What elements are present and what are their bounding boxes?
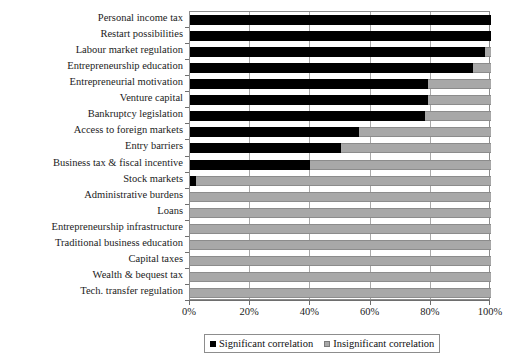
bar-row (190, 79, 489, 89)
bar-segment-insignificant (485, 47, 491, 57)
bar-segment-insignificant (190, 224, 491, 234)
bar-row (190, 95, 489, 105)
category-label: Stock markets (0, 174, 183, 184)
category-label: Administrative burdens (0, 190, 183, 200)
bar-segment-insignificant (428, 95, 491, 105)
category-label: Entrepreneurial motivation (0, 77, 183, 87)
bar-row (190, 31, 489, 41)
category-label: Entry barriers (0, 141, 183, 151)
bar-row (190, 272, 489, 282)
bar-segment-significant (190, 31, 491, 41)
category-label: Tech. transfer regulation (0, 286, 183, 296)
bar-row (190, 63, 489, 73)
y-axis-tick (185, 75, 189, 76)
bar-segment-significant (190, 63, 473, 73)
legend-swatch-gray (324, 341, 330, 347)
y-axis-tick (185, 156, 189, 157)
bar-segment-insignificant (190, 288, 491, 298)
bar-row (190, 256, 489, 266)
x-axis-tick (489, 300, 490, 305)
category-label: Bankruptcy legislation (0, 109, 183, 119)
x-axis-tick-label: 0% (182, 306, 196, 317)
category-label: Business tax & fiscal incentive (0, 158, 183, 168)
bar-segment-insignificant (190, 192, 491, 202)
category-label: Venture capital (0, 93, 183, 103)
x-axis-tick-label: 100% (478, 306, 503, 317)
y-axis-tick (185, 188, 189, 189)
bar-segment-significant (190, 160, 310, 170)
bar-segment-significant (190, 111, 425, 121)
bar-row (190, 160, 489, 170)
category-label: Wealth & bequest tax (0, 270, 183, 280)
x-axis-tick (430, 300, 431, 305)
category-label: Labour market regulation (0, 45, 183, 55)
y-axis-tick (185, 252, 189, 253)
y-axis-tick (185, 284, 189, 285)
bar-segment-insignificant (310, 160, 491, 170)
bar-segment-significant (190, 15, 491, 25)
category-label: Entrepreneurship infrastructure (0, 222, 183, 232)
legend-item: Significant correlation (210, 339, 313, 349)
bar-row (190, 208, 489, 218)
bar-row (190, 111, 489, 121)
y-axis-tick (185, 43, 189, 44)
bar-segment-insignificant (428, 79, 491, 89)
x-axis-tick (309, 300, 310, 305)
x-axis-tick-label: 20% (240, 306, 259, 317)
y-axis-tick (185, 27, 189, 28)
plot-area (189, 11, 490, 300)
bar-row (190, 143, 489, 153)
bar-segment-insignificant (196, 176, 491, 186)
bar-row (190, 15, 489, 25)
chart-figure: Personal income taxRestart possibilities… (0, 0, 526, 358)
x-axis-tick (370, 300, 371, 305)
bar-row (190, 240, 489, 250)
bar-row (190, 47, 489, 57)
x-axis-tick-label: 80% (420, 306, 439, 317)
y-axis-tick (185, 123, 189, 124)
category-label: Access to foreign markets (0, 125, 183, 135)
legend-swatch-black (210, 341, 216, 347)
y-axis-tick (185, 59, 189, 60)
bar-segment-significant (190, 143, 341, 153)
bar-segment-insignificant (473, 63, 491, 73)
bar-segment-insignificant (190, 256, 491, 266)
category-axis-labels: Personal income taxRestart possibilities… (0, 11, 186, 300)
bar-segment-insignificant (341, 143, 492, 153)
bar-segment-insignificant (425, 111, 491, 121)
category-label: Personal income tax (0, 13, 183, 23)
bar-segment-significant (190, 79, 428, 89)
legend-item: Insignificant correlation (324, 339, 434, 349)
legend-label: Insignificant correlation (333, 339, 434, 349)
y-axis-tick (185, 204, 189, 205)
y-axis-tick (185, 220, 189, 221)
bar-row (190, 288, 489, 298)
y-axis-tick (185, 268, 189, 269)
bar-segment-insignificant (190, 272, 491, 282)
x-axis-tick-label: 40% (300, 306, 319, 317)
category-label: Loans (0, 206, 183, 216)
bar-segment-significant (190, 95, 428, 105)
bar-row (190, 176, 489, 186)
y-axis-tick (185, 172, 189, 173)
chart-legend: Significant correlationInsignificant cor… (204, 334, 440, 353)
bar-segment-insignificant (190, 208, 491, 218)
bar-segment-insignificant (359, 127, 491, 137)
x-axis-tick (189, 300, 190, 305)
category-label: Traditional business education (0, 238, 183, 248)
bar-segment-significant (190, 127, 359, 137)
category-label: Capital taxes (0, 254, 183, 264)
category-label: Entrepreneurship education (0, 61, 183, 71)
bar-segment-insignificant (190, 240, 491, 250)
x-axis-line (189, 300, 490, 301)
y-axis-tick (185, 107, 189, 108)
y-axis-tick (185, 91, 189, 92)
y-axis-tick (185, 236, 189, 237)
y-axis-tick (185, 139, 189, 140)
x-axis-tick (249, 300, 250, 305)
legend-label: Significant correlation (219, 339, 313, 349)
x-axis-tick-label: 60% (360, 306, 379, 317)
bar-segment-significant (190, 47, 485, 57)
bar-row (190, 192, 489, 202)
bar-row (190, 224, 489, 234)
